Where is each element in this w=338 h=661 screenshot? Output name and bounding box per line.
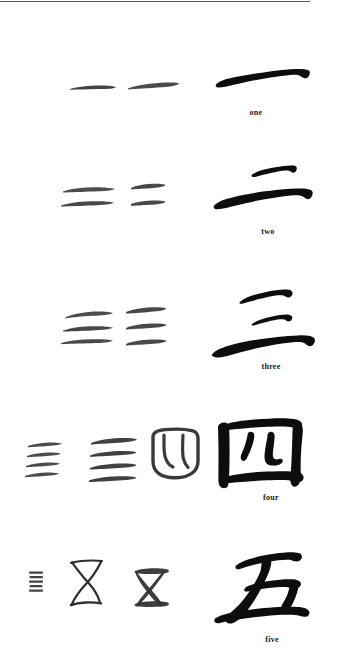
four-oracle-bone-form xyxy=(24,440,64,484)
numeral-row-five: five xyxy=(0,550,338,650)
three-oracle-bone-form xyxy=(60,308,116,350)
caption-three: three xyxy=(246,362,296,371)
one-oracle-bone-form xyxy=(68,80,118,94)
five-bronze-script-form xyxy=(133,566,171,608)
numeral-row-three: three xyxy=(0,280,338,380)
three-modern-brush-form xyxy=(208,280,318,368)
four-bronze-script-form xyxy=(88,435,138,487)
caption-two: two xyxy=(243,227,293,236)
five-tally-mark-form xyxy=(28,570,46,596)
two-oracle-bone-form xyxy=(60,183,116,215)
numeral-row-two: two xyxy=(0,155,338,250)
one-bronze-script-form xyxy=(126,77,180,93)
five-modern-brush-form xyxy=(206,550,314,630)
three-bronze-script-form xyxy=(125,304,167,352)
one-modern-brush-form xyxy=(213,65,313,95)
caption-five: five xyxy=(247,635,297,644)
top-horizontal-rule xyxy=(0,1,310,2)
four-seal-script-form xyxy=(148,427,202,483)
five-oracle-bone-form xyxy=(67,558,107,610)
four-modern-brush-form xyxy=(210,417,310,495)
numeral-row-one: one xyxy=(0,55,338,145)
page-canvas: one two xyxy=(0,0,338,661)
caption-one: one xyxy=(231,108,281,117)
two-modern-brush-form xyxy=(208,159,316,219)
two-bronze-script-form xyxy=(130,179,166,215)
caption-four: four xyxy=(246,493,296,502)
numeral-row-four: four xyxy=(0,415,338,510)
